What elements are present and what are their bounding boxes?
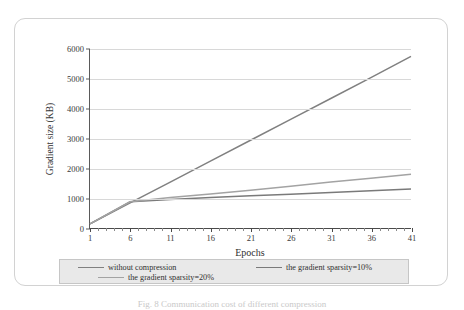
x-tick-label: 21 xyxy=(247,233,256,243)
y-tick-label: 2000 xyxy=(67,164,90,174)
figure-caption: Fig. 8 Communication cost of different c… xyxy=(0,299,464,310)
x-tick-mark-minor xyxy=(259,228,260,231)
x-tick-label: 26 xyxy=(287,233,296,243)
x-tick-mark-minor xyxy=(235,228,236,231)
x-tick-mark-minor xyxy=(106,228,107,231)
gridline xyxy=(90,199,411,200)
series-line xyxy=(90,189,411,224)
x-tick-label: 6 xyxy=(128,233,132,243)
x-tick-mark-minor xyxy=(404,228,405,231)
x-tick-mark xyxy=(90,228,91,232)
x-tick-mark-minor xyxy=(315,228,316,231)
x-tick-label: 36 xyxy=(368,233,377,243)
x-tick-mark xyxy=(130,228,131,232)
x-tick-mark xyxy=(291,228,292,232)
y-tick-label: 3000 xyxy=(67,134,90,144)
y-tick-label: 5000 xyxy=(67,74,90,84)
y-tick-label: 4000 xyxy=(67,104,90,114)
legend-label: the gradient sparsity=20% xyxy=(128,273,214,282)
x-tick-mark-minor xyxy=(323,228,324,231)
x-tick-mark-minor xyxy=(146,228,147,231)
y-tick-label: 6000 xyxy=(67,44,90,54)
figure-frame: Communication cost Gradient size (KB) 01… xyxy=(14,18,448,286)
x-tick-label: 11 xyxy=(166,233,174,243)
gridline xyxy=(90,49,411,50)
legend-swatch xyxy=(98,277,124,278)
gridline xyxy=(90,139,411,140)
x-tick-mark-minor xyxy=(283,228,284,231)
x-tick-mark-minor xyxy=(162,228,163,231)
y-tick-label: 1000 xyxy=(67,194,90,204)
x-tick-mark-minor xyxy=(299,228,300,231)
x-tick-mark-minor xyxy=(138,228,139,231)
x-tick-mark-minor xyxy=(179,228,180,231)
x-tick-mark-minor xyxy=(267,228,268,231)
x-tick-label: 16 xyxy=(207,233,216,243)
x-tick-mark-minor xyxy=(348,228,349,231)
legend-label: without compression xyxy=(108,263,176,272)
x-tick-mark-minor xyxy=(356,228,357,231)
x-tick-mark-minor xyxy=(203,228,204,231)
x-tick-mark-minor xyxy=(243,228,244,231)
legend-item[interactable]: without compression xyxy=(78,263,176,272)
x-axis-label: Epochs xyxy=(89,247,411,258)
legend-item[interactable]: the gradient sparsity=20% xyxy=(98,273,214,282)
x-tick-mark xyxy=(372,228,373,232)
chart-legend: without compressionthe gradient sparsity… xyxy=(59,259,409,284)
x-tick-mark-minor xyxy=(340,228,341,231)
x-tick-mark xyxy=(412,228,413,232)
gridline xyxy=(90,109,411,110)
x-tick-mark-minor xyxy=(227,228,228,231)
gridline xyxy=(90,169,411,170)
x-tick-mark-minor xyxy=(364,228,365,231)
x-tick-mark xyxy=(332,228,333,232)
x-tick-mark xyxy=(171,228,172,232)
x-tick-label: 1 xyxy=(88,233,92,243)
x-tick-mark xyxy=(251,228,252,232)
y-axis-label: Gradient size (KB) xyxy=(45,49,59,229)
legend-swatch xyxy=(78,267,104,268)
x-tick-mark-minor xyxy=(219,228,220,231)
x-tick-mark-minor xyxy=(114,228,115,231)
x-tick-mark-minor xyxy=(275,228,276,231)
x-tick-mark-minor xyxy=(187,228,188,231)
x-tick-mark-minor xyxy=(154,228,155,231)
x-tick-mark-minor xyxy=(388,228,389,231)
legend-label: the gradient sparsity=10% xyxy=(286,263,372,272)
x-tick-mark-minor xyxy=(380,228,381,231)
plot-area: 0100020003000400050006000161116212631364… xyxy=(89,49,411,229)
legend-swatch xyxy=(256,267,282,268)
x-tick-mark-minor xyxy=(122,228,123,231)
gridline xyxy=(90,79,411,80)
x-tick-mark xyxy=(211,228,212,232)
x-tick-label: 31 xyxy=(327,233,336,243)
x-tick-mark-minor xyxy=(98,228,99,231)
x-tick-label: 41 xyxy=(408,233,417,243)
x-tick-mark-minor xyxy=(307,228,308,231)
x-tick-mark-minor xyxy=(195,228,196,231)
x-tick-mark-minor xyxy=(396,228,397,231)
legend-item[interactable]: the gradient sparsity=10% xyxy=(256,263,372,272)
